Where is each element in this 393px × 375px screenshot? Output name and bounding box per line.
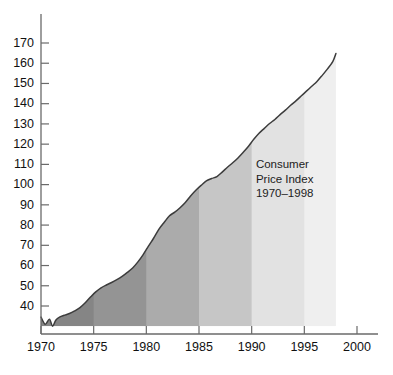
x-tick-label: 1990: [238, 340, 266, 354]
y-tick-label: 90: [20, 198, 34, 212]
annotation-line-3: 1970–1998: [256, 187, 314, 199]
y-tick-label: 140: [13, 96, 34, 110]
x-axis-tick-labels: 1970197519801985199019952000: [27, 340, 371, 354]
y-tick-label: 160: [13, 56, 34, 70]
y-tick-label: 170: [13, 36, 34, 50]
y-tick-label: 50: [20, 279, 34, 293]
band-4: [199, 0, 252, 326]
x-tick-label: 1980: [132, 340, 160, 354]
annotation-line-2: Price Index: [256, 173, 314, 185]
chart-annotation: ConsumerPrice Index1970–1998: [256, 158, 314, 199]
y-tick-label: 130: [13, 117, 34, 131]
x-tick-label: 1970: [27, 340, 55, 354]
chart-canvas: 405060708090100110120130140150160170 197…: [0, 0, 393, 375]
y-tick-label: 110: [14, 157, 34, 171]
x-tick-label: 1975: [80, 340, 108, 354]
band-6: [304, 0, 336, 326]
y-tick-label: 80: [20, 218, 34, 232]
x-tick-label: 2000: [343, 340, 371, 354]
cpi-area-chart: 405060708090100110120130140150160170 197…: [0, 0, 393, 375]
y-tick-label: 120: [13, 137, 34, 151]
annotation-line-1: Consumer: [256, 158, 309, 170]
x-tick-label: 1985: [185, 340, 213, 354]
band-1: [41, 0, 94, 326]
band-3: [146, 0, 199, 326]
y-tick-label: 70: [20, 238, 34, 252]
y-axis-tick-labels: 405060708090100110120130140150160170: [13, 36, 34, 313]
y-tick-label: 60: [20, 258, 34, 272]
y-tick-label: 40: [20, 299, 34, 313]
y-tick-label: 150: [13, 76, 34, 90]
y-tick-label: 100: [13, 177, 34, 191]
x-tick-label: 1995: [290, 340, 318, 354]
